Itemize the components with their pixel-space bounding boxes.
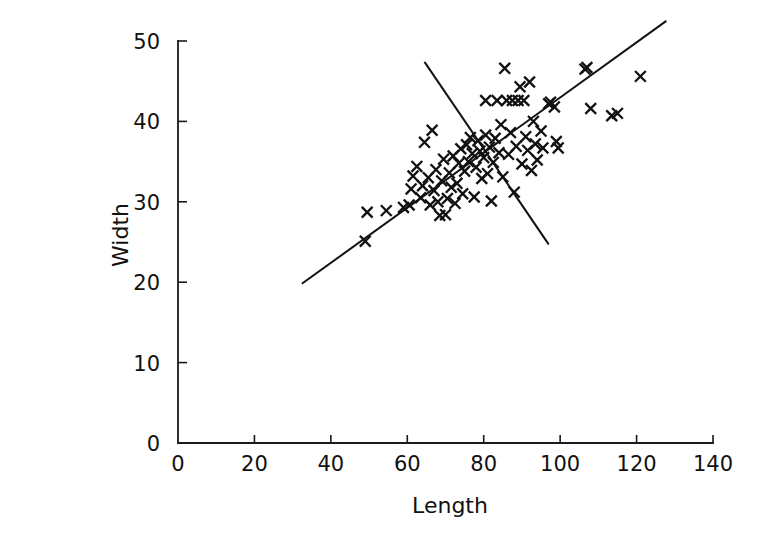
data-point [452, 178, 463, 189]
data-point [585, 103, 596, 114]
y-tick-label-20: 20 [133, 271, 160, 295]
data-point [406, 184, 417, 195]
y-tick-label-30: 30 [133, 191, 160, 215]
data-point [446, 182, 457, 193]
data-point [427, 125, 438, 136]
x-tick-label-100: 100 [540, 452, 580, 476]
data-point [408, 171, 419, 182]
data-point [419, 137, 430, 148]
data-point [480, 130, 491, 141]
data-point [536, 126, 547, 137]
data-point [411, 161, 422, 172]
y-axis-title: Width [108, 203, 133, 267]
data-point [480, 95, 491, 106]
data-point [438, 154, 449, 165]
data-point [431, 164, 442, 175]
axis-spines [178, 41, 713, 443]
ticks-group [178, 41, 713, 443]
y-tick-label-0: 0 [147, 432, 160, 456]
data-point [635, 71, 646, 82]
data-point [526, 165, 537, 176]
data-point [532, 155, 543, 166]
data-point [457, 188, 468, 199]
tick-labels-group: 02040608010012014001020304050 [133, 30, 733, 476]
data-point [509, 187, 520, 198]
data-point [381, 205, 392, 216]
data-point [520, 131, 531, 142]
plot-canvas: 02040608010012014001020304050 Length Wid… [0, 0, 768, 554]
x-axis-title: Length [412, 493, 488, 518]
x-tick-label-20: 20 [241, 452, 268, 476]
data-point [513, 95, 524, 106]
scatter-plot-figure: 02040608010012014001020304050 Length Wid… [0, 0, 768, 554]
x-tick-label-60: 60 [394, 452, 421, 476]
data-point [469, 192, 480, 203]
axes-group [178, 41, 713, 443]
y-tick-label-40: 40 [133, 110, 160, 134]
data-point [492, 95, 503, 106]
y-tick-label-10: 10 [133, 352, 160, 376]
data-point [455, 143, 466, 154]
data-points-group [360, 62, 646, 246]
data-point [517, 159, 528, 170]
data-point [511, 141, 522, 152]
x-tick-label-140: 140 [693, 452, 733, 476]
data-point [501, 95, 512, 106]
data-point [471, 162, 482, 173]
x-tick-label-0: 0 [171, 452, 184, 476]
data-point [497, 171, 508, 182]
data-point [482, 168, 493, 179]
data-point [415, 192, 426, 203]
data-point [505, 127, 516, 138]
data-point [494, 147, 505, 158]
x-tick-label-40: 40 [317, 452, 344, 476]
data-point [499, 63, 510, 74]
data-point [507, 95, 518, 106]
x-tick-label-120: 120 [617, 452, 657, 476]
data-point [518, 95, 529, 106]
data-point [362, 207, 373, 218]
x-tick-label-80: 80 [470, 452, 497, 476]
y-tick-label-50: 50 [133, 30, 160, 54]
data-point [486, 196, 497, 207]
